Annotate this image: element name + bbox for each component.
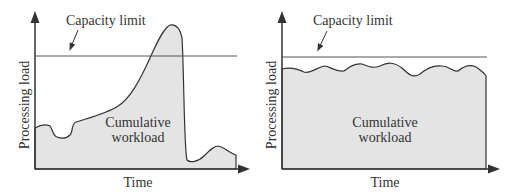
capacity-arrow-right [319,31,327,48]
capacity-label-right: Capacity limit [313,13,393,28]
ylabel-left: Processing load [17,61,32,149]
area-label-right-2: workload [359,130,412,145]
area-label-right-1: Cumulative [352,115,417,130]
area-label-left-2: workload [112,130,165,145]
left-panel: Capacity limit Cumulative workload Time … [17,13,244,190]
xlabel-left: Time [123,175,152,190]
workload-diagram: Capacity limit Cumulative workload Time … [0,0,516,194]
xlabel-right: Time [370,175,399,190]
capacity-label-left: Capacity limit [66,13,146,28]
area-label-left-1: Cumulative [105,115,170,130]
capacity-arrow-left [71,30,78,47]
right-panel: Capacity limit Cumulative workload Time … [264,13,494,190]
ylabel-right: Processing load [264,61,279,149]
workload-area-left [35,25,236,169]
